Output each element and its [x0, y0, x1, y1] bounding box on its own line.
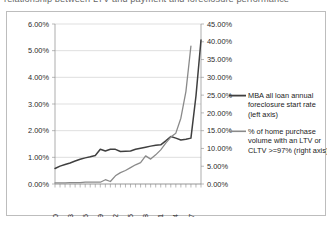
left-axis-tick-label: 0.00% — [28, 180, 49, 189]
x-axis-tick-label: 1995 — [126, 214, 135, 217]
left-axis-tick-label: 5.00% — [28, 46, 49, 55]
cut-off-body-text: relationship between LTV and payment and… — [4, 0, 334, 4]
left-axis-tick-label: 3.00% — [28, 100, 49, 109]
legend-label-1: MBA all loan annual — [248, 91, 314, 100]
left-axis-tick-label: 4.00% — [28, 73, 49, 82]
right-axis-tick-label: 20.00% — [207, 109, 232, 118]
series-line-2 — [55, 46, 191, 183]
chart-frame: 0.00%1.00%2.00%3.00%4.00%5.00%6.00%0.00%… — [6, 11, 326, 216]
legend-label-1: foreclosure start rate — [248, 100, 316, 109]
x-axis-tick-label: 1980 — [51, 214, 60, 217]
x-axis-tick-label: 1986 — [81, 214, 90, 217]
x-axis-tick-label: 1983 — [66, 214, 75, 217]
right-axis-tick-label: 10.00% — [207, 144, 232, 153]
left-axis-tick-label: 1.00% — [28, 153, 49, 162]
x-axis-tick-label: 1992 — [111, 214, 120, 217]
right-axis-tick-label: 5.00% — [207, 162, 228, 171]
legend-label-2: volume with an LTV or — [248, 136, 322, 145]
x-axis-tick-label: 1989 — [96, 214, 105, 217]
right-axis-tick-label: 0.00% — [207, 180, 228, 189]
left-axis-tick-label: 2.00% — [28, 126, 49, 135]
x-axis-tick-label: 2001 — [156, 214, 165, 217]
chart-figure-page: relationship between LTV and payment and… — [0, 0, 335, 230]
legend-label-2: % of home purchase — [248, 127, 316, 136]
right-axis-tick-label: 25.00% — [207, 91, 232, 100]
line-chart: 0.00%1.00%2.00%3.00%4.00%5.00%6.00%0.00%… — [7, 12, 327, 217]
legend-label-1: (left axis) — [248, 110, 278, 119]
x-axis-tick-label: 1998 — [141, 214, 150, 217]
right-axis-tick-label: 15.00% — [207, 126, 232, 135]
x-axis-tick-label: 2004 — [171, 214, 180, 217]
right-axis-tick-label: 35.00% — [207, 55, 232, 64]
right-axis-tick-label: 45.00% — [207, 20, 232, 29]
x-axis-tick-label: 2007 — [187, 214, 196, 217]
legend-label-2: CLTV >=97% (right axis) — [248, 146, 327, 155]
left-axis-tick-label: 6.00% — [28, 20, 49, 29]
right-axis-tick-label: 40.00% — [207, 37, 232, 46]
chart-canvas: 0.00%1.00%2.00%3.00%4.00%5.00%6.00%0.00%… — [7, 12, 327, 217]
right-axis-tick-label: 30.00% — [207, 73, 232, 82]
